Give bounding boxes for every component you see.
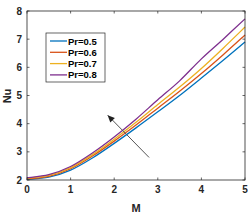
x-tick-label: 4 bbox=[199, 184, 205, 195]
legend: Pr=0.5Pr=0.6Pr=0.7Pr=0.8 bbox=[46, 33, 105, 82]
y-tick-label: 2 bbox=[16, 175, 22, 186]
chart: 0123452345678 Pr=0.5Pr=0.6Pr=0.7Pr=0.8 M… bbox=[0, 0, 250, 217]
x-tick-label: 2 bbox=[111, 184, 117, 195]
y-tick-label: 4 bbox=[16, 118, 22, 129]
legend-label: Pr=0.8 bbox=[68, 69, 97, 80]
x-tick-label: 0 bbox=[24, 184, 30, 195]
y-tick-label: 3 bbox=[16, 146, 22, 157]
legend-label: Pr=0.7 bbox=[68, 58, 97, 69]
x-tick-label: 1 bbox=[68, 184, 74, 195]
y-axis-label: Nu bbox=[1, 89, 13, 104]
y-tick-label: 8 bbox=[16, 6, 22, 17]
y-tick-label: 7 bbox=[16, 34, 22, 45]
legend-label: Pr=0.5 bbox=[68, 36, 98, 47]
x-axis-label: M bbox=[131, 202, 140, 214]
x-tick-label: 3 bbox=[155, 184, 161, 195]
x-tick-label: 5 bbox=[242, 184, 248, 195]
y-tick-label: 6 bbox=[16, 62, 22, 73]
y-tick-label: 5 bbox=[16, 90, 22, 101]
legend-label: Pr=0.6 bbox=[68, 47, 97, 58]
